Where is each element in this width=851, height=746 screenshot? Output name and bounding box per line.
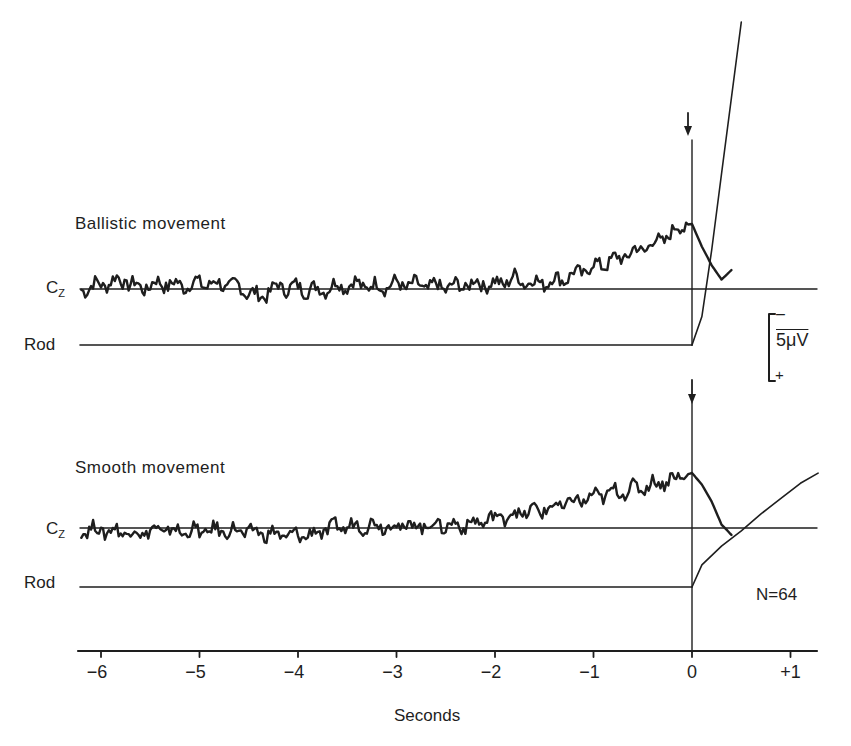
x-tick-label: −1: [579, 662, 600, 683]
cz-trace-ballistic: [81, 223, 731, 303]
plot-area: [0, 0, 851, 746]
rod-trace-ballistic: [692, 22, 741, 345]
x-tick-label: +1: [780, 662, 801, 683]
cz-label-smooth: CZ: [46, 519, 65, 539]
scale-bar-plus: +: [775, 366, 784, 383]
rod-label-ballistic: Rod: [24, 335, 55, 355]
panel-title-ballistic: Ballistic movement: [75, 214, 226, 234]
n-annotation: N=64: [756, 585, 797, 605]
x-tick-label: −6: [87, 662, 108, 683]
cz-label-ballistic: CZ: [46, 278, 65, 298]
erp-figure: Ballistic movement CZ Rod Smooth movemen…: [0, 0, 851, 746]
rod-trace-smooth: [692, 473, 818, 587]
arrow-down-icon: [684, 126, 692, 136]
cz-label-main: C: [46, 278, 58, 297]
x-tick-label: −2: [481, 662, 502, 683]
x-tick-label: −4: [284, 662, 305, 683]
cz-label-sub: Z: [58, 287, 65, 299]
scale-bar-minus: –: [776, 305, 785, 323]
x-tick-label: −5: [185, 662, 206, 683]
rod-label-smooth: Rod: [24, 573, 55, 593]
cz-label-sub: Z: [58, 528, 65, 540]
scale-bar-value: 5μV: [776, 330, 808, 351]
cz-label-main: C: [46, 519, 58, 538]
cz-trace-smooth: [81, 473, 731, 543]
x-tick-label: 0: [687, 662, 697, 683]
x-axis-label: Seconds: [394, 706, 460, 726]
x-tick-label: −3: [382, 662, 403, 683]
arrow-down-icon: [688, 394, 696, 404]
panel-title-smooth: Smooth movement: [75, 458, 225, 478]
